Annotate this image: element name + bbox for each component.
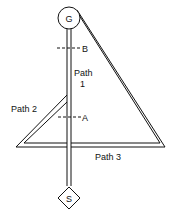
goal-label: G — [65, 14, 72, 24]
path-2-corridor — [16, 95, 67, 147]
path-1-label-line1: Path — [74, 68, 93, 78]
path-1-corridor — [67, 29, 71, 186]
path-3-label: Path 3 — [95, 152, 121, 162]
path-1-label-line2: 1 — [80, 79, 85, 89]
marker-b-label: B — [82, 44, 88, 54]
maze-diagram: G S B A Path 1 Path 2 Path 3 — [0, 0, 173, 222]
marker-a-label: A — [82, 113, 88, 123]
start-label: S — [66, 194, 72, 204]
path-3-corridor — [71, 10, 165, 147]
path-2-label: Path 2 — [11, 104, 37, 114]
